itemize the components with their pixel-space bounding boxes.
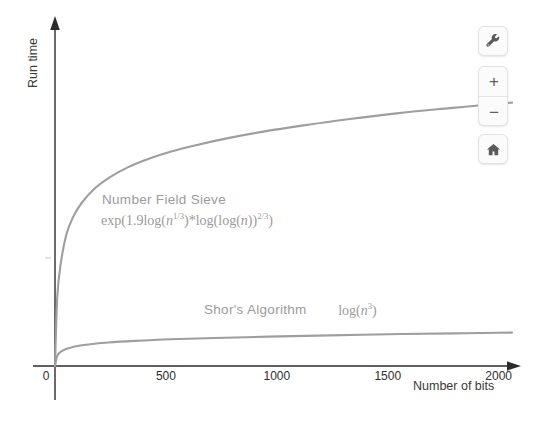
shor-series-label: Shor's Algorithm <box>204 302 307 317</box>
series-line-number-field-sieve <box>55 103 512 366</box>
nfs-formula-open: exp(1.9 <box>101 213 143 228</box>
nfs-formula-log2: log(log( <box>196 213 241 228</box>
x-tick-label-1500: 1500 <box>358 369 418 383</box>
home-icon <box>486 142 501 157</box>
y-axis-arrowhead <box>50 16 60 30</box>
shor-formula-var: n <box>361 303 368 318</box>
nfs-formula-close3: ) <box>268 213 273 228</box>
nfs-formula-log1: log( <box>143 213 166 228</box>
settings-wrench-button[interactable] <box>478 26 508 56</box>
y-axis-title: Run time <box>26 23 40 103</box>
nfs-formula-sup1: 1/3 <box>173 211 184 221</box>
shor-annotation: Shor's Algorithm log(n3) <box>204 300 377 319</box>
shor-formula-close: ) <box>372 303 377 318</box>
shor-formula-log: log( <box>338 303 361 318</box>
series-line-shors-algorithm <box>55 333 512 366</box>
nfs-annotation: Number Field Sieve exp(1.9log(n1/3)*log(… <box>101 192 273 229</box>
shor-series-formula: log(n3) <box>338 301 377 319</box>
plus-icon: + <box>489 73 499 90</box>
zoom-control-group: + − <box>478 66 508 126</box>
nfs-formula-sup2: 2/3 <box>257 211 268 221</box>
nfs-formula-close2: )) <box>248 213 257 228</box>
x-tick-label-2000: 2000 <box>469 369 529 383</box>
x-tick-label-1000: 1000 <box>247 369 307 383</box>
nfs-series-label: Number Field Sieve <box>102 192 273 207</box>
chart-canvas: Run time Number of bits 0 500 1000 1500 … <box>0 0 535 424</box>
zoom-out-button[interactable]: − <box>479 97 509 127</box>
nfs-series-formula: exp(1.9log(n1/3)*log(log(n))2/3) <box>101 211 273 229</box>
minus-icon: − <box>489 104 499 121</box>
nfs-formula-var1: n <box>166 213 173 228</box>
zoom-in-button[interactable]: + <box>479 67 509 97</box>
nfs-formula-var2: n <box>241 213 248 228</box>
x-tick-label-0: 0 <box>16 369 76 383</box>
wrench-icon <box>486 34 501 49</box>
nfs-formula-mult: * <box>189 213 196 228</box>
x-tick-label-500: 500 <box>136 369 196 383</box>
home-button[interactable] <box>478 134 508 164</box>
